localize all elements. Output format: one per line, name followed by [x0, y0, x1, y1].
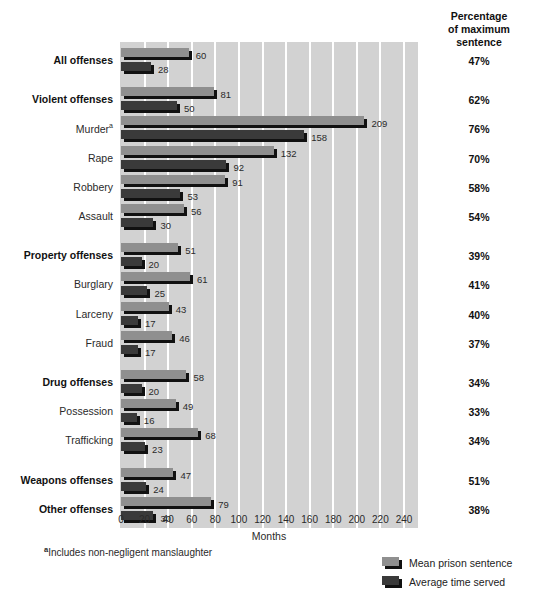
bar-value-label-mean: 61 [197, 275, 208, 285]
percentage-value: 76% [420, 123, 538, 135]
percentage-value: 54% [420, 211, 538, 223]
bar-value-label-mean: 46 [179, 334, 190, 344]
bar-value-label-served: 17 [145, 319, 156, 329]
category-label-possession: Possession [0, 405, 113, 417]
category-label-other-offenses: Other offenses [0, 503, 113, 515]
legend-item-average-time-served: Average time served [382, 575, 512, 589]
bar-mean[interactable] [121, 87, 217, 99]
bar-served[interactable] [121, 218, 156, 230]
bar-served[interactable] [121, 413, 140, 425]
percentage-header-line-2: of maximum [420, 23, 538, 36]
bar-served[interactable] [121, 384, 145, 396]
bar-mean[interactable] [121, 468, 176, 480]
x-tick-60: 60 [186, 514, 197, 525]
bar-mean[interactable] [121, 116, 367, 128]
percentage-value: 34% [420, 435, 538, 447]
percentage-value: 40% [420, 309, 538, 321]
percentage-value: 34% [420, 377, 538, 389]
x-tick-40: 40 [163, 514, 174, 525]
category-label-text: Larceny [76, 308, 113, 320]
legend-swatch-served-icon [382, 576, 402, 588]
percentage-value: 47% [420, 55, 538, 67]
legend-label-mean: Mean prison sentence [409, 557, 512, 569]
bar-served[interactable] [121, 345, 141, 357]
category-label-text: Fraud [86, 337, 113, 349]
bar-value-label-served: 53 [187, 192, 198, 202]
x-axis-title: Months [120, 530, 418, 542]
bar-value-label-served: 25 [154, 289, 165, 299]
percentage-value: 70% [420, 153, 538, 165]
bar-served[interactable] [121, 442, 148, 454]
bar-served[interactable] [121, 101, 180, 113]
bar-value-label-served: 20 [149, 387, 160, 397]
bar-value-label-mean: 91 [232, 178, 243, 188]
category-label-rape: Rape [0, 152, 113, 164]
bar-value-label-served: 28 [158, 65, 169, 75]
bar-mean[interactable] [121, 243, 181, 255]
x-tick-220: 220 [372, 514, 389, 525]
bar-value-label-mean: 47 [180, 471, 191, 481]
footnote-ref-icon: a [109, 122, 113, 129]
bar-mean[interactable] [121, 272, 193, 284]
bar-served[interactable] [121, 62, 154, 74]
bar-mean[interactable] [121, 370, 189, 382]
bar-value-label-served: 17 [145, 348, 156, 358]
legend-swatch-mean-icon [382, 557, 402, 569]
bar-served[interactable] [121, 189, 183, 201]
bar-value-label-mean: 56 [191, 207, 202, 217]
bar-value-label-mean: 58 [193, 373, 204, 383]
bar-group: 6028 [120, 46, 418, 80]
percentage-header-line-3: sentence [420, 36, 538, 49]
percentage-value: 39% [420, 250, 538, 262]
category-label-text: Possession [59, 405, 113, 417]
bar-mean[interactable] [121, 175, 228, 187]
bar-served[interactable] [121, 257, 145, 269]
bar-value-label-served: 30 [160, 221, 171, 231]
x-tick-100: 100 [231, 514, 248, 525]
percentage-value: 38% [420, 504, 538, 516]
bar-mean[interactable] [121, 331, 175, 343]
category-label-all-offenses: All offenses [0, 54, 113, 66]
bar-group: 4617 [120, 329, 418, 363]
category-label-fraud: Fraud [0, 337, 113, 349]
category-label-text: Rape [88, 152, 113, 164]
bar-mean[interactable] [121, 497, 214, 509]
percentage-value: 37% [420, 338, 538, 350]
category-label-property-offenses: Property offenses [0, 249, 113, 261]
bar-value-label-served: 16 [144, 416, 155, 426]
category-label-text: Violent offenses [32, 93, 113, 105]
bar-mean[interactable] [121, 146, 277, 158]
bar-mean[interactable] [121, 48, 192, 60]
bar-mean[interactable] [121, 302, 172, 314]
category-label-text: Burglary [74, 278, 113, 290]
bar-value-label-mean: 43 [176, 305, 187, 315]
x-tick-140: 140 [278, 514, 295, 525]
percentage-value: 58% [420, 182, 538, 194]
x-tick-200: 200 [348, 514, 365, 525]
category-label-text: Assault [79, 210, 113, 222]
percentage-value: 62% [420, 94, 538, 106]
category-label-text: Trafficking [65, 434, 113, 446]
bar-served[interactable] [121, 482, 149, 494]
bar-value-label-served: 23 [152, 445, 163, 455]
bar-served[interactable] [121, 316, 141, 328]
bar-value-label-served: 50 [184, 104, 195, 114]
x-axis-ticks: 020406080100120140160180200220240 [120, 511, 418, 529]
bar-served[interactable] [121, 130, 307, 142]
x-tick-160: 160 [301, 514, 318, 525]
category-label-murder: Murdera [0, 122, 113, 135]
bar-value-label-served: 24 [153, 485, 164, 495]
bar-value-label-mean: 51 [185, 246, 196, 256]
bar-served[interactable] [121, 286, 150, 298]
bar-mean[interactable] [121, 428, 201, 440]
x-tick-0: 0 [118, 514, 124, 525]
bar-value-label-mean: 209 [371, 119, 387, 129]
bar-served[interactable] [121, 160, 229, 172]
legend-label-served: Average time served [409, 576, 505, 588]
chart-legend: Mean prison sentence Average time served [382, 556, 512, 594]
category-label-text: Property offenses [24, 249, 113, 261]
bar-mean[interactable] [121, 204, 187, 216]
category-label-text: Murder [76, 123, 109, 135]
bar-mean[interactable] [121, 399, 179, 411]
category-label-text: All offenses [53, 54, 113, 66]
